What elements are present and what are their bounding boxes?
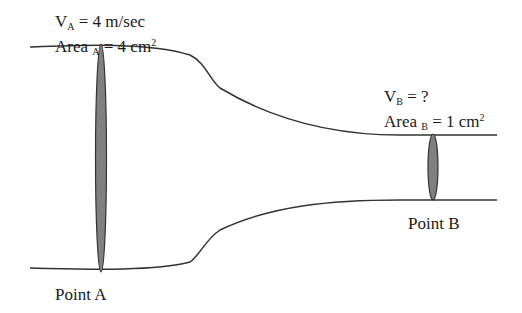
point-a-label: Point A	[55, 285, 107, 305]
area-b-label: Area B = 1 cm2	[384, 108, 485, 137]
point-b-label: Point B	[408, 214, 460, 234]
area-a-label: Area A = 4 cm2	[55, 33, 156, 62]
cross-section-a	[96, 44, 107, 272]
cross-section-b	[428, 134, 438, 200]
